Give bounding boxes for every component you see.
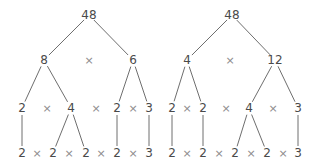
multiply-sign: × bbox=[268, 102, 277, 115]
multiply-sign: × bbox=[225, 54, 234, 67]
multiply-sign: × bbox=[182, 102, 191, 115]
multiply-sign: × bbox=[128, 102, 137, 115]
tree-labels: 488×62×4×2×32×2×2×2×3484×122×2×4×32×2×2×… bbox=[18, 8, 302, 160]
factor-tree-diagram: 488×62×4×2×32×2×2×2×3484×122×2×4×32×2×2×… bbox=[0, 0, 319, 161]
tree-edge bbox=[237, 115, 247, 147]
factor-node: 2 bbox=[231, 146, 239, 160]
factor-node: 2 bbox=[168, 101, 176, 115]
multiply-sign: × bbox=[32, 147, 41, 160]
factor-node: 2 bbox=[263, 146, 271, 160]
factor-node: 2 bbox=[82, 146, 90, 160]
multiply-sign: × bbox=[84, 54, 93, 67]
multiply-sign: × bbox=[182, 147, 191, 160]
factor-node: 3 bbox=[294, 101, 302, 115]
factor-node: 6 bbox=[129, 53, 137, 67]
factor-node: 4 bbox=[67, 101, 75, 115]
factor-node: 48 bbox=[224, 8, 239, 22]
factor-node: 12 bbox=[267, 53, 282, 67]
multiply-sign: × bbox=[42, 102, 51, 115]
factor-node: 8 bbox=[40, 53, 48, 67]
factor-node: 3 bbox=[294, 146, 302, 160]
tree-edge bbox=[174, 67, 185, 102]
tree-edge bbox=[192, 20, 227, 55]
tree-edge bbox=[252, 115, 265, 147]
factor-node: 48 bbox=[81, 8, 96, 22]
multiply-sign: × bbox=[221, 102, 230, 115]
tree-edge bbox=[94, 20, 128, 55]
factor-node: 3 bbox=[145, 101, 153, 115]
tree-edge bbox=[49, 20, 84, 55]
tree-edge bbox=[189, 67, 201, 102]
factor-node: 2 bbox=[113, 101, 121, 115]
factor-node: 4 bbox=[183, 53, 191, 67]
factor-node: 2 bbox=[49, 146, 57, 160]
multiply-sign: × bbox=[246, 147, 255, 160]
tree-edge bbox=[25, 66, 41, 101]
tree-edge bbox=[278, 66, 295, 101]
tree-edges bbox=[22, 20, 298, 147]
tree-edge bbox=[237, 20, 270, 55]
multiply-sign: × bbox=[64, 147, 73, 160]
factor-node: 2 bbox=[18, 146, 26, 160]
factor-node: 4 bbox=[245, 101, 253, 115]
factor-node: 2 bbox=[199, 101, 207, 115]
multiply-sign: × bbox=[214, 147, 223, 160]
multiply-sign: × bbox=[91, 102, 100, 115]
factor-node: 2 bbox=[18, 101, 26, 115]
multiply-sign: × bbox=[96, 147, 105, 160]
tree-edge bbox=[135, 67, 147, 102]
tree-edge bbox=[252, 66, 271, 102]
tree-edge bbox=[56, 115, 69, 147]
multiply-sign: × bbox=[128, 147, 137, 160]
tree-edge bbox=[47, 66, 67, 102]
tree-edge bbox=[119, 67, 131, 102]
factor-node: 2 bbox=[199, 146, 207, 160]
factor-node: 3 bbox=[145, 146, 153, 160]
multiply-sign: × bbox=[278, 147, 287, 160]
factor-node: 2 bbox=[168, 146, 176, 160]
tree-edge bbox=[73, 115, 84, 147]
factor-node: 2 bbox=[113, 146, 121, 160]
